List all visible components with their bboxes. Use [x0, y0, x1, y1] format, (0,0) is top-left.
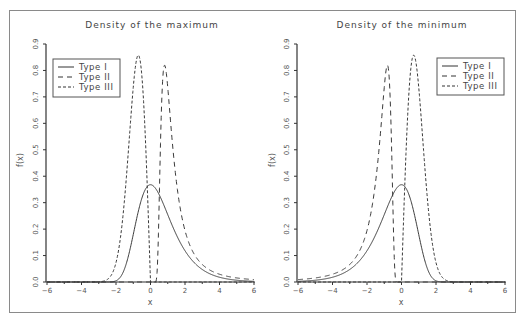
y-ticks: 0.00.10.20.30.40.50.60.70.80.9 — [32, 38, 46, 287]
y-tick-label: 0.7 — [32, 91, 40, 102]
y-tick-label: 0.6 — [283, 117, 291, 129]
y-ticks: 0.00.10.20.30.40.50.60.70.80.9 — [283, 38, 297, 287]
x-tick-label: 0 — [399, 287, 403, 295]
x-tick-label: −6 — [293, 287, 304, 295]
y-tick-label: 0.2 — [283, 224, 291, 235]
legend-label: Type II — [78, 72, 110, 82]
chart-canvas: Density of the maximum 0.00.10.20.30.40.… — [0, 0, 526, 325]
y-tick-label: 0.6 — [32, 117, 40, 129]
x-tick-label: 4 — [468, 287, 473, 295]
legend-label: Type I — [78, 62, 107, 72]
y-tick-label: 0.9 — [283, 38, 291, 49]
x-tick-label: −4 — [327, 287, 338, 295]
legend-label: Type III — [462, 81, 498, 91]
series-type-i — [298, 185, 505, 282]
y-axis-label: f(x) — [16, 153, 25, 167]
y-tick-label: 0.9 — [32, 38, 40, 49]
panel-title: Density of the maximum — [85, 20, 219, 30]
x-tick-label: 2 — [434, 287, 438, 295]
panel-title: Density of the minimum — [337, 20, 468, 30]
x-tick-label: 6 — [503, 287, 508, 295]
y-tick-label: 0.0 — [32, 276, 40, 287]
legend: Type I Type II Type III — [437, 58, 504, 95]
y-tick-label: 0.0 — [283, 276, 291, 287]
y-tick-label: 0.4 — [32, 170, 40, 182]
panel-maximum: Density of the maximum 0.00.10.20.30.40.… — [16, 20, 257, 307]
x-ticks: −6−4−20246 — [42, 282, 257, 295]
y-tick-label: 0.2 — [32, 224, 40, 235]
x-tick-label: 0 — [148, 287, 152, 295]
y-tick-label: 0.4 — [283, 170, 291, 182]
x-tick-label: 4 — [217, 287, 222, 295]
x-ticks: −6−4−20246 — [293, 282, 508, 295]
y-axis-label: f(x) — [268, 153, 277, 167]
series-type-ii — [47, 65, 254, 282]
x-tick-label: −2 — [111, 287, 121, 295]
y-tick-label: 0.3 — [283, 197, 291, 208]
y-tick-label: 0.1 — [32, 250, 40, 261]
legend-label: Type II — [462, 71, 494, 81]
y-tick-label: 0.1 — [283, 250, 291, 261]
y-tick-label: 0.8 — [283, 65, 291, 76]
legend: Type I Type II Type III — [53, 59, 120, 97]
x-tick-label: −2 — [362, 287, 372, 295]
y-tick-label: 0.3 — [32, 197, 40, 208]
x-tick-label: 6 — [252, 287, 257, 295]
series-type-ii — [298, 65, 505, 282]
legend-label: Type III — [78, 82, 114, 92]
x-tick-label: −6 — [42, 287, 53, 295]
y-tick-label: 0.5 — [32, 144, 40, 155]
y-tick-label: 0.7 — [283, 91, 291, 102]
legend-label: Type I — [462, 61, 491, 71]
x-tick-label: 2 — [183, 287, 187, 295]
y-tick-label: 0.8 — [32, 65, 40, 76]
x-axis-label: x — [399, 298, 404, 307]
x-tick-label: −4 — [76, 287, 87, 295]
panel-minimum: Density of the minimum 0.00.10.20.30.40.… — [268, 20, 508, 307]
x-axis-label: x — [148, 298, 153, 307]
y-tick-label: 0.5 — [283, 144, 291, 155]
